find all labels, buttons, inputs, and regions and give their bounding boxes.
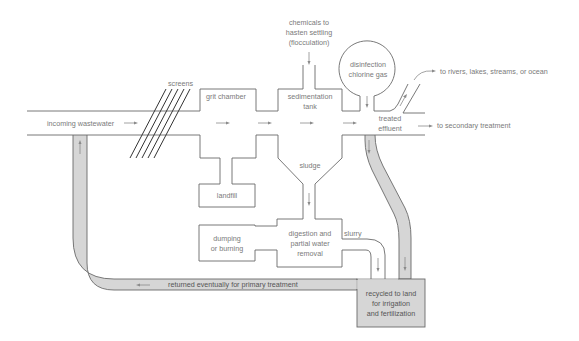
treated-effluent-label-2: effluent <box>378 124 401 133</box>
chemicals-label-1: chemicals to <box>289 18 329 27</box>
dumping-label-1: dumping <box>213 234 241 243</box>
sludge-label: sludge <box>299 161 320 170</box>
recycled-label-1: recycled to land <box>366 289 416 298</box>
grit-chamber-label: grit chamber <box>206 92 247 101</box>
sedimentation-label-2: tank <box>303 102 317 111</box>
channel-top-wall-right <box>374 84 408 111</box>
to-secondary-label: to secondary treatment <box>437 121 511 130</box>
incoming-wastewater-label: incoming wastewater <box>47 119 115 128</box>
chemicals-label-3: (flocculation) <box>289 38 330 47</box>
effluent-recycle-pipe <box>365 135 411 279</box>
digestion-label-2: partial water <box>290 239 330 248</box>
screens <box>130 89 190 158</box>
landfill-label: landfill <box>217 191 238 200</box>
treated-effluent-label-1: treated <box>379 114 401 123</box>
disinfection-label-2: chlorine gas <box>349 70 388 79</box>
disinfection-label-1: disinfection <box>350 60 386 69</box>
digestion-label-1: digestion and <box>289 229 332 238</box>
wastewater-treatment-diagram: incoming wastewater screens grit chamber… <box>0 0 579 341</box>
returned-label: returned eventually for primary treatmen… <box>168 280 298 289</box>
to-rivers-label: to rivers, lakes, streams, or ocean <box>440 67 548 76</box>
slurry-label: slurry <box>344 229 362 238</box>
recycled-label-3: and fertilization <box>367 309 415 318</box>
screens-label: screens <box>168 79 194 88</box>
digestion-label-3: removal <box>297 249 323 258</box>
recycled-label-2: for irrigation <box>372 299 410 308</box>
sedimentation-label-1: sedimentation <box>288 92 333 101</box>
chemicals-label-2: hasten settling <box>286 28 332 37</box>
dumping-label-2: or burning <box>211 244 243 253</box>
